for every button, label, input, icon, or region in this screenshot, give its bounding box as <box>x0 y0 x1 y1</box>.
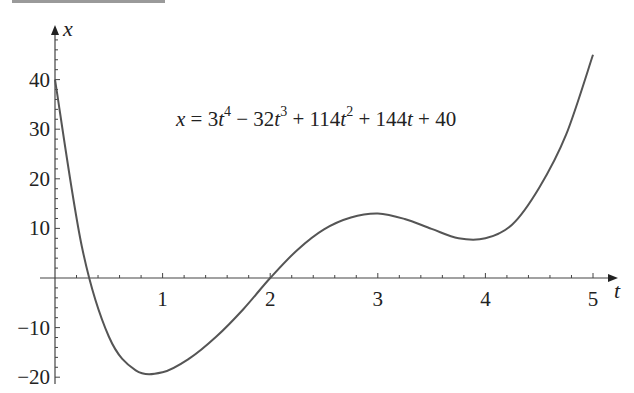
x-tick-label: 2 <box>265 287 276 311</box>
ticks <box>55 40 593 377</box>
y-tick-label: 40 <box>29 68 50 92</box>
function-curve <box>55 55 593 374</box>
x-tick-label: 4 <box>480 287 491 311</box>
x-axis-label: t <box>614 278 621 303</box>
chart-plot: 12345−20−1010203040 t x <box>0 0 634 393</box>
x-tick-label: 3 <box>373 287 384 311</box>
y-axis-arrow-icon <box>51 25 59 35</box>
y-tick-label: 30 <box>29 117 50 141</box>
y-axis-label: x <box>62 16 73 41</box>
y-tick-label: 10 <box>29 216 50 240</box>
y-tick-label: −20 <box>17 365 50 389</box>
y-tick-label: 20 <box>29 167 50 191</box>
x-tick-label: 1 <box>157 287 168 311</box>
x-tick-label: 5 <box>588 287 599 311</box>
y-tick-label: −10 <box>17 316 50 340</box>
formula-annotation: x = 3t4 − 32t3 + 114t2 + 144t + 40 <box>176 106 456 132</box>
axes <box>40 25 618 384</box>
